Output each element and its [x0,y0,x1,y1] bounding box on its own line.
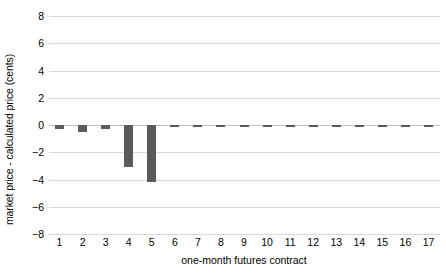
x-axis-title: one-month futures contract [48,254,440,266]
bar [355,125,364,127]
bar [124,125,133,167]
x-tick-label: 5 [149,236,155,248]
plot-area [48,16,440,234]
y-tick-label: −6 [32,201,44,213]
x-tick-label: 2 [80,236,86,248]
x-tick-label: 12 [307,236,319,248]
x-tick-label: 6 [172,236,178,248]
bar [263,125,272,127]
x-axis-tick-labels: 1234567891011121314151617 [48,236,440,252]
x-tick-label: 17 [423,236,435,248]
y-axis-tick-labels: 86420−2−4−6−8 [22,16,44,234]
y-tick-label: 8 [38,10,44,22]
bar [78,125,87,132]
x-tick-label: 14 [353,236,365,248]
y-tick-label: 6 [38,37,44,49]
x-tick-label: 1 [57,236,63,248]
bar [401,125,410,127]
bar [240,125,249,127]
y-axis-title: market price - calculated price (cents) [0,0,18,279]
x-tick-label: 4 [126,236,132,248]
x-tick-label: 9 [241,236,247,248]
bar [55,125,64,129]
chart-figure: market price - calculated price (cents) … [0,0,446,279]
x-tick-label: 13 [330,236,342,248]
bar [216,125,225,127]
y-tick-label: 4 [38,65,44,77]
y-tick-label: 2 [38,92,44,104]
x-tick-label: 7 [195,236,201,248]
bar [424,125,433,127]
bar-series [48,16,440,234]
bar [378,125,387,127]
bar [332,125,341,127]
x-tick-label: 16 [400,236,412,248]
y-tick-label: −2 [32,146,44,158]
gridline--8 [48,234,440,235]
x-tick-label: 8 [218,236,224,248]
x-tick-label: 3 [103,236,109,248]
y-tick-label: 0 [38,119,44,131]
bar [147,125,156,182]
y-tick-label: −8 [32,228,44,240]
bar [193,125,202,127]
bar [101,125,110,129]
x-tick-label: 10 [261,236,273,248]
y-tick-label: −4 [32,174,44,186]
x-tick-label: 15 [377,236,389,248]
bar [309,125,318,127]
bar [170,125,179,127]
bar [286,125,295,127]
x-tick-label: 11 [285,236,296,248]
